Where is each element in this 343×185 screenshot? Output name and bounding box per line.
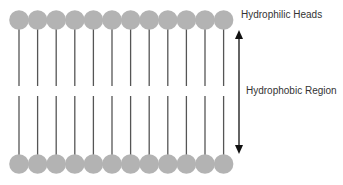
lipid-head [102,154,122,174]
lipid-head [102,10,122,30]
lipid-head [9,154,29,174]
lipid-head [28,154,48,174]
lipid-head [195,10,215,30]
bottom-tails [19,96,224,160]
lipid-head [28,10,48,30]
lipid-head [84,10,104,30]
bottom-hydrophilic-heads [9,154,233,174]
lipid-head [177,154,197,174]
hydrophobic-region-label: Hydrophobic Region [246,85,337,96]
lipid-head [9,10,29,30]
lipid-head [214,10,234,30]
lipid-head [65,154,85,174]
lipid-head [65,10,85,30]
lipid-head [121,10,141,30]
lipid-head [195,154,215,174]
lipid-head [158,154,178,174]
lipid-head [46,10,66,30]
top-hydrophilic-heads [9,10,233,30]
lipid-head [139,10,159,30]
lipid-head [46,154,66,174]
hydrophilic-heads-label: Hydrophilic Heads [241,9,322,20]
lipid-head [177,10,197,30]
double-arrow-icon [235,30,243,154]
lipid-head [158,10,178,30]
lipid-head [214,154,234,174]
lipid-head [84,154,104,174]
top-tails [19,22,224,86]
lipid-head [139,154,159,174]
lipid-head [121,154,141,174]
